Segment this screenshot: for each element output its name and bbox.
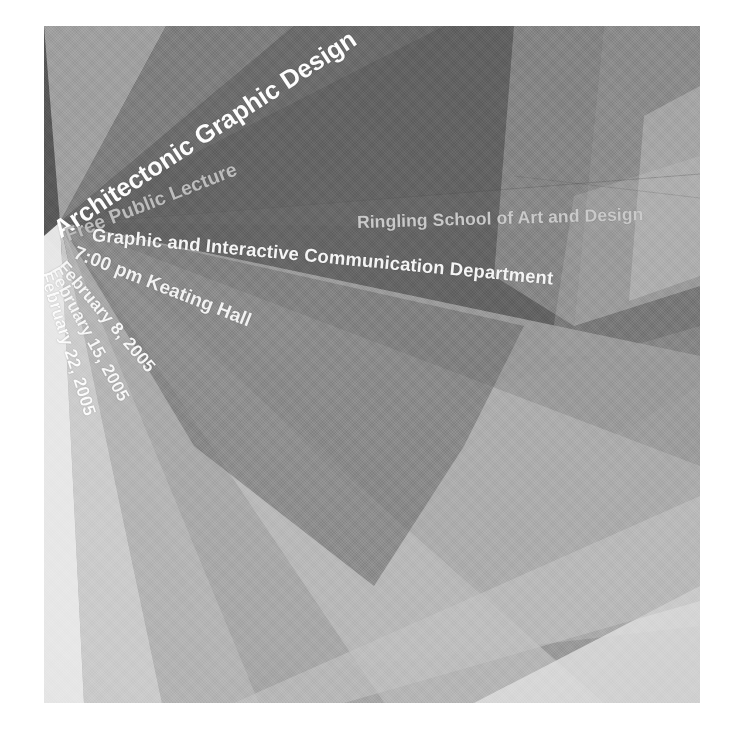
fan-composition-graphic: [44, 26, 700, 703]
poster-artwork: Architectonic Graphic Design Free Public…: [44, 26, 700, 703]
scanned-page: Architectonic Graphic Design Free Public…: [0, 0, 731, 747]
